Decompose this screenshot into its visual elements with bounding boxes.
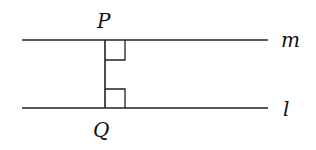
right-angle-marker-p (105, 40, 125, 60)
label-p: P (96, 9, 111, 33)
right-angle-marker-q (105, 89, 125, 108)
label-q: Q (93, 118, 109, 142)
label-m: m (281, 28, 300, 52)
label-l: l (283, 97, 289, 121)
parallel-lines-diagram: P Q m l (0, 0, 316, 150)
